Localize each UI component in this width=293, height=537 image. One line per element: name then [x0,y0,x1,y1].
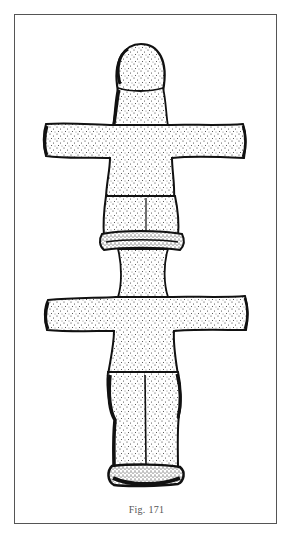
figurine-head [117,44,165,91]
figurine-upper-arms [44,123,246,198]
figure-caption: Fig. 171 [0,504,293,515]
figurine-lower-neck [118,249,168,297]
figurine-upper-skirt [104,196,179,236]
figurine-neck [113,88,168,126]
figurine-lower-arms [45,296,248,375]
cruciform-figurine-illustration [0,0,293,537]
figurine-legs [107,372,180,470]
